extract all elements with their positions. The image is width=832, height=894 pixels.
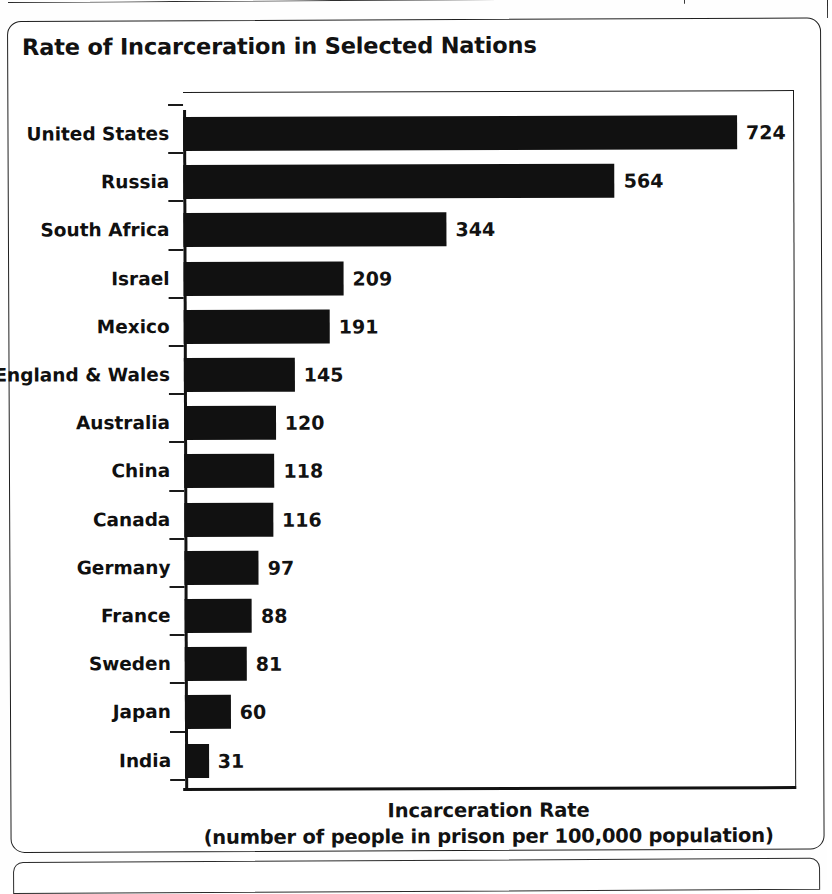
bar-row[interactable]: China118	[184, 445, 795, 495]
bar-row[interactable]: Russia564	[183, 156, 794, 206]
bar[interactable]	[184, 551, 258, 585]
bar-row[interactable]: United States724	[183, 108, 794, 158]
y-axis-tick	[169, 441, 184, 443]
bar[interactable]	[183, 213, 446, 248]
y-axis-tick	[168, 104, 183, 106]
bar-row[interactable]: France88	[185, 590, 796, 640]
x-axis-caption: Incarceration Rate (number of people in …	[183, 798, 794, 849]
y-axis-tick	[169, 297, 184, 299]
x-axis-caption-line1: Incarceration Rate	[183, 798, 794, 823]
category-label: China	[111, 456, 170, 486]
bar-value-label: 88	[261, 601, 288, 631]
bar-value-label: 31	[218, 745, 245, 775]
y-axis-tick	[169, 345, 184, 347]
bar[interactable]	[185, 744, 209, 778]
bar-row[interactable]: Israel209	[184, 253, 795, 303]
y-axis-tick	[168, 152, 183, 154]
bar-value-label: 145	[304, 359, 344, 389]
y-axis-tick	[168, 249, 183, 251]
category-label: France	[101, 601, 171, 631]
y-axis-tick	[169, 393, 184, 395]
bar[interactable]	[185, 647, 247, 681]
y-axis-tick	[170, 779, 185, 781]
bar-row[interactable]: Japan60	[185, 686, 796, 736]
category-label: Germany	[77, 553, 171, 583]
bar[interactable]	[185, 695, 231, 729]
bar-row[interactable]: Germany97	[184, 542, 795, 592]
bar-row[interactable]: England & Wales145	[184, 349, 795, 399]
category-label: Sweden	[89, 649, 171, 679]
bar[interactable]	[184, 406, 276, 440]
bar[interactable]	[185, 599, 252, 633]
bar-row[interactable]: Canada116	[184, 494, 795, 544]
y-axis-tick	[170, 634, 185, 636]
chart-title: Rate of Incarceration in Selected Nation…	[22, 32, 537, 60]
bar-row[interactable]: South Africa344	[183, 204, 794, 254]
bar-row[interactable]: Australia120	[184, 397, 795, 447]
page-card-border-lower	[13, 858, 820, 894]
y-axis-tick	[169, 538, 184, 540]
bar-value-label: 116	[282, 504, 322, 534]
bar-value-label: 118	[283, 456, 323, 486]
bar-value-label: 81	[256, 649, 283, 679]
bar[interactable]	[184, 309, 330, 343]
page-edge-tab	[684, 0, 832, 4]
category-label: Israel	[111, 264, 169, 294]
bar-value-label: 564	[624, 166, 664, 196]
category-label: Mexico	[97, 312, 170, 342]
bar-value-label: 97	[268, 552, 295, 582]
category-label: Canada	[93, 505, 171, 535]
bar-value-label: 344	[456, 214, 496, 244]
bar[interactable]	[184, 261, 344, 296]
bar[interactable]	[183, 115, 737, 151]
category-label: England & Wales	[0, 360, 170, 391]
y-axis-tick	[169, 490, 184, 492]
bar[interactable]	[184, 454, 274, 488]
bar-row[interactable]: Sweden81	[185, 638, 796, 688]
bar[interactable]	[183, 164, 615, 199]
category-label: United States	[26, 119, 169, 149]
bar-value-label: 724	[746, 117, 786, 147]
plot-area: United States724Russia564South Africa344…	[183, 90, 796, 791]
bar[interactable]	[184, 502, 273, 536]
category-label: Japan	[113, 697, 171, 727]
y-axis-tick	[170, 586, 185, 588]
bar-row[interactable]: India31	[185, 735, 796, 785]
bar-value-label: 120	[285, 408, 325, 438]
bar-row[interactable]: Mexico191	[184, 301, 795, 351]
bar-value-label: 191	[339, 311, 379, 341]
y-axis-tick	[170, 731, 185, 733]
bar[interactable]	[184, 358, 295, 392]
y-axis-tick	[168, 200, 183, 202]
x-axis-caption-line2: (number of people in prison per 100,000 …	[183, 824, 794, 849]
category-label: South Africa	[40, 215, 169, 245]
category-label: India	[119, 746, 171, 776]
category-label: Russia	[101, 167, 169, 197]
bar-value-label: 60	[240, 697, 267, 727]
y-axis-tick	[170, 682, 185, 684]
category-label: Australia	[76, 408, 170, 438]
bar-value-label: 209	[352, 263, 392, 293]
